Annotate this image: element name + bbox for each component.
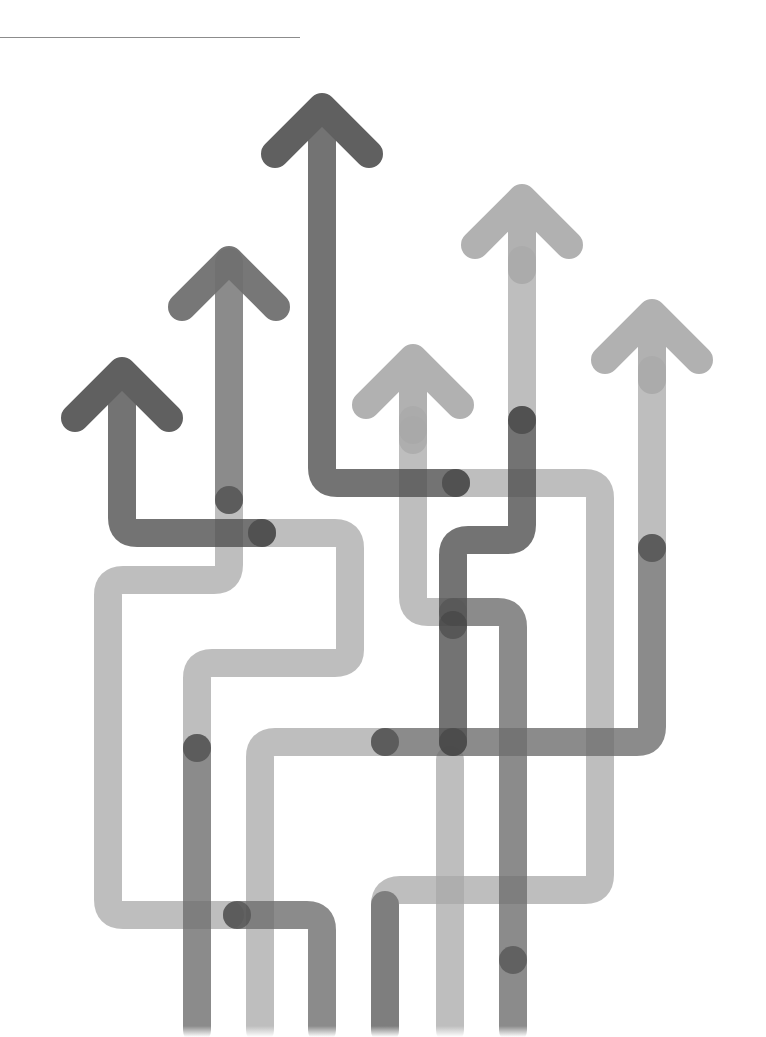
junction-dot [248,519,276,547]
junction-dot [439,611,467,639]
junction-dot [442,469,470,497]
arrow-4-head [475,198,569,270]
junction-dot [371,728,399,756]
arrow-3-shaft [322,110,456,483]
junction-dot [508,406,536,434]
arrow-5-head [366,358,460,430]
junction-dot [183,734,211,762]
light-path-a [108,500,230,915]
arrow-6-head [605,313,699,380]
dark-path-group [122,110,522,742]
junction-dot [215,486,243,514]
junction-dot [223,901,251,929]
growth-arrows-illustration [0,0,766,1037]
bottom-fade [0,1026,766,1037]
junction-dot [638,534,666,562]
junction-dot [499,946,527,974]
junction-dot [439,728,467,756]
